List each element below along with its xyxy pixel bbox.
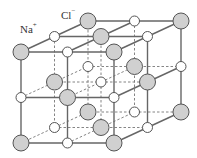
sodium-ion bbox=[50, 32, 60, 42]
sodium-ion bbox=[130, 16, 140, 26]
chloride-label-text: Cl bbox=[61, 9, 71, 21]
chloride-ion bbox=[93, 29, 109, 45]
chloride-ion bbox=[13, 44, 29, 60]
sodium-ion bbox=[109, 93, 119, 103]
chloride-ion bbox=[127, 59, 143, 75]
sodium-charge: + bbox=[33, 21, 37, 29]
sodium-ion bbox=[143, 32, 153, 42]
sodium-ion-label: Na+ bbox=[20, 23, 37, 35]
sodium-ion bbox=[176, 62, 186, 72]
sodium-ion bbox=[143, 123, 153, 133]
sodium-ion bbox=[63, 138, 73, 148]
chloride-ion bbox=[173, 104, 189, 120]
sodium-ion bbox=[50, 123, 60, 133]
sodium-ion bbox=[63, 47, 73, 57]
sodium-ion bbox=[130, 107, 140, 117]
chloride-ion bbox=[106, 44, 122, 60]
chloride-ion bbox=[106, 135, 122, 151]
chloride-charge: − bbox=[71, 7, 75, 15]
sodium-label-text: Na bbox=[20, 23, 33, 35]
chloride-ion bbox=[80, 104, 96, 120]
chloride-ion bbox=[13, 135, 29, 151]
chloride-ion bbox=[140, 74, 156, 90]
sodium-ion bbox=[83, 62, 93, 72]
chloride-ion bbox=[173, 13, 189, 29]
chloride-ion-label: Cl− bbox=[61, 9, 75, 21]
chloride-ion bbox=[93, 120, 109, 136]
sodium-ion bbox=[16, 93, 26, 103]
chloride-ion bbox=[47, 74, 63, 90]
chloride-ion bbox=[60, 90, 76, 106]
chloride-ion bbox=[80, 13, 96, 29]
sodium-ion bbox=[96, 77, 106, 87]
ions bbox=[13, 13, 189, 151]
